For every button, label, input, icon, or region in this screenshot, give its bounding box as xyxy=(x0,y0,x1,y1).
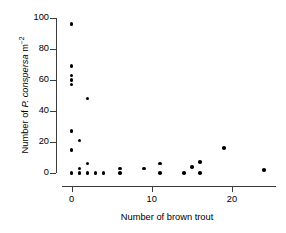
x-axis-tick-label: 0 xyxy=(57,195,87,204)
data-point xyxy=(118,167,122,171)
plot-area xyxy=(62,18,276,173)
scatter-plot-figure: Number of P. conspersa m−2 020406080100 … xyxy=(0,0,286,233)
y-axis-tick xyxy=(50,80,56,81)
y-axis-tick-label: 60 xyxy=(9,75,49,84)
x-axis-tick xyxy=(152,186,153,192)
data-point xyxy=(70,74,74,78)
data-point xyxy=(70,171,74,175)
data-point xyxy=(86,162,90,166)
y-axis-tick xyxy=(50,49,56,50)
data-point xyxy=(190,165,194,169)
data-point xyxy=(198,171,202,175)
x-axis-tick xyxy=(232,186,233,192)
data-point xyxy=(86,171,90,175)
data-point xyxy=(142,167,146,171)
x-axis-tick xyxy=(72,186,73,192)
x-axis-label: Number of brown trout xyxy=(52,212,282,222)
data-point xyxy=(78,171,82,175)
y-axis-spine xyxy=(56,18,57,173)
data-point xyxy=(70,22,74,26)
y-axis-tick xyxy=(50,173,56,174)
data-point xyxy=(158,171,162,175)
data-point xyxy=(158,162,162,166)
data-point xyxy=(222,146,226,150)
data-point xyxy=(262,168,266,172)
data-point xyxy=(198,160,202,164)
x-axis-tick-label: 10 xyxy=(137,195,167,204)
data-point xyxy=(70,64,74,68)
data-point xyxy=(102,171,106,175)
y-axis-tick xyxy=(50,18,56,19)
y-axis-tick-label: 40 xyxy=(9,106,49,115)
y-axis-tick xyxy=(50,111,56,112)
x-axis-tick-label: 20 xyxy=(217,195,247,204)
data-point xyxy=(78,167,82,171)
data-point xyxy=(70,129,74,133)
data-point xyxy=(86,97,90,101)
y-axis-tick xyxy=(50,142,56,143)
data-point xyxy=(94,171,98,175)
data-point xyxy=(70,83,74,87)
data-point xyxy=(70,78,74,82)
y-axis-tick-label: 0 xyxy=(9,168,49,177)
data-point xyxy=(70,148,74,152)
y-axis-tick-label: 100 xyxy=(9,13,49,22)
data-point xyxy=(118,171,122,175)
data-point xyxy=(182,171,186,175)
x-axis-spine xyxy=(62,186,276,187)
y-axis-label: Number of P. conspersa m−2 xyxy=(16,10,34,180)
data-point xyxy=(78,139,82,143)
y-axis-tick-label: 80 xyxy=(9,44,49,53)
y-axis-tick-label: 20 xyxy=(9,137,49,146)
y-axis-label-exponent: −2 xyxy=(18,37,25,45)
